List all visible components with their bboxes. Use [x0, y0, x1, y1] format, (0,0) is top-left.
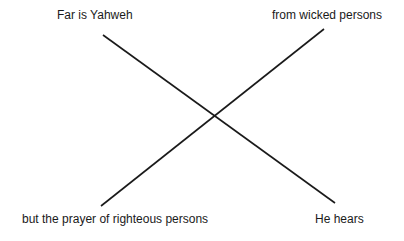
label-bottom-right: He hears	[315, 212, 364, 226]
label-top-right: from wicked persons	[272, 8, 382, 22]
label-bottom-left: but the prayer of righteous persons	[22, 212, 208, 226]
chiasm-diagram: Far is Yahweh from wicked persons but th…	[0, 0, 404, 241]
line-top-right-to-bottom-left	[101, 29, 324, 206]
crossing-lines	[0, 0, 404, 241]
label-top-left: Far is Yahweh	[57, 8, 133, 22]
